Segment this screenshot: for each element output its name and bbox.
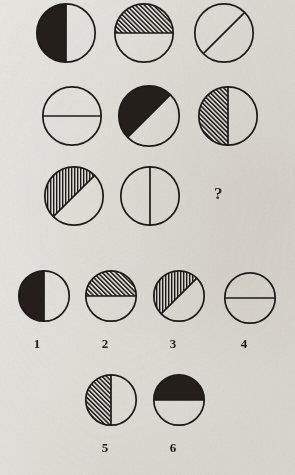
matrix-cell-1-2[interactable] <box>112 1 176 65</box>
answer-option-label-6: 6 <box>163 440 183 456</box>
puzzle-stage: ? 1 2 3 4 5 6 <box>0 0 295 475</box>
answer-option-1[interactable] <box>16 268 72 324</box>
answer-option-label-5: 5 <box>95 440 115 456</box>
matrix-cell-3-2[interactable] <box>118 164 182 228</box>
answer-option-label-1: 1 <box>27 336 47 352</box>
matrix-cell-2-2[interactable] <box>116 83 182 149</box>
matrix-cell-2-1[interactable] <box>40 84 104 148</box>
answer-option-3[interactable] <box>151 268 207 324</box>
answer-option-2[interactable] <box>83 268 139 324</box>
matrix-cell-3-1[interactable] <box>42 164 106 228</box>
answer-option-5[interactable] <box>83 372 139 428</box>
matrix-cell-1-1[interactable] <box>34 1 98 65</box>
answer-option-4[interactable] <box>222 270 278 326</box>
matrix-cell-2-3[interactable] <box>196 84 260 148</box>
answer-option-6[interactable] <box>151 372 207 428</box>
answer-option-label-4: 4 <box>234 336 254 352</box>
matrix-cell-1-3[interactable] <box>192 1 256 65</box>
missing-item-question-mark: ? <box>214 184 223 204</box>
answer-option-label-3: 3 <box>163 336 183 352</box>
answer-option-label-2: 2 <box>95 336 115 352</box>
